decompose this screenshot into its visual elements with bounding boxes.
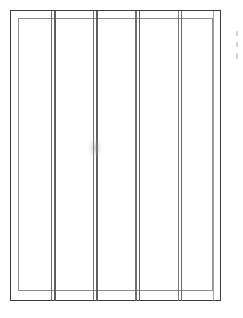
edge-mark-edge-mark-1 — [236, 31, 238, 36]
elevation-drawing — [0, 0, 243, 318]
edge-mark-edge-mark-3 — [236, 53, 238, 59]
drawing-canvas — [0, 0, 243, 318]
page-root: Vertical Panel Elevation Rectangular ele… — [0, 0, 243, 318]
edge-mark-edge-mark-2 — [236, 42, 238, 47]
paper-background — [0, 0, 243, 318]
